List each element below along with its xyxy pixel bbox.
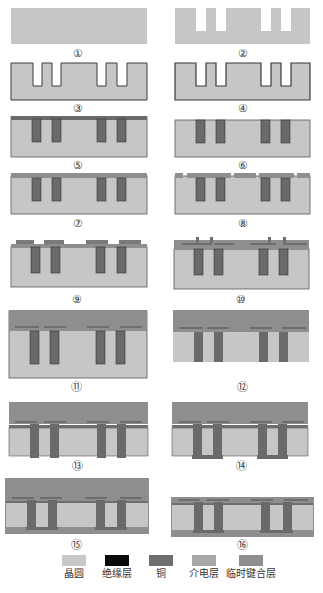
legend-item-copper: 铜 [149,555,173,580]
step-8-panel [175,173,310,214]
copper-swatch [149,555,173,566]
legend-label: 绝缘层 [102,568,132,580]
step-13-panel [9,402,148,458]
dielectric-swatch [192,555,216,566]
step-label-7: ⑦ [73,218,83,230]
step-15-panel [5,478,149,534]
step-label-1: ① [73,48,83,60]
step-label-11: ⑪ [71,382,82,394]
temp-bond-swatch [239,555,263,566]
step-label-6: ⑥ [238,160,248,172]
legend-label: 铜 [149,568,173,580]
legend-item-insulator: 绝缘层 [102,555,132,580]
step-5-panel [11,116,147,157]
legend-label: 临时键合层 [226,568,276,580]
step-label-13: ⑬ [72,461,83,473]
step-label-8: ⑧ [238,218,248,230]
legend-label: 晶圆 [62,568,86,580]
process-diagram [0,0,323,555]
wafer-swatch [62,555,86,566]
step-6-panel [175,120,310,157]
step-4-panel [175,63,310,100]
step-label-10: ⑩ [236,294,246,306]
step-12-panel [173,310,309,362]
step-14-panel [172,402,308,459]
step-label-9: ⑨ [72,294,82,306]
step-3-panel [11,63,147,100]
step-label-2: ② [238,48,248,60]
step-7-panel [11,173,147,214]
legend: 晶圆 绝缘层 铜 介电层 临时键合层 [0,555,323,593]
step-label-12: ⑫ [237,382,248,394]
step-2-panel [175,8,310,44]
step-label-5: ⑤ [73,160,83,172]
step-label-15: ⑮ [71,540,82,552]
step-10-panel [174,237,309,289]
step-9-panel [11,240,147,287]
step-label-3: ③ [73,103,83,115]
step-16-panel [171,497,314,537]
legend-label: 介电层 [189,568,219,580]
step-label-16: ⑯ [237,540,248,552]
insulator-swatch [105,555,129,566]
step-label-4: ④ [238,103,248,115]
legend-item-dielectric: 介电层 [189,555,219,580]
step-11-panel [9,310,147,378]
legend-item-wafer: 晶圆 [62,555,86,580]
step-label-14: ⑭ [236,461,247,473]
step-1-panel [11,8,147,44]
legend-item-temp-bond: 临时键合层 [226,555,276,580]
